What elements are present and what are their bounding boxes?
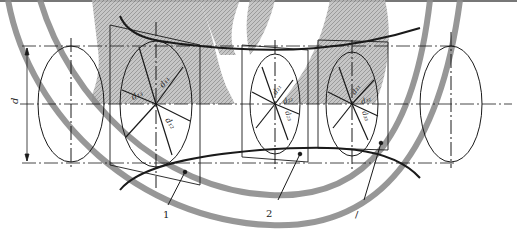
watermark-shapes: [92, 0, 389, 104]
callout-3: /: [355, 209, 359, 220]
callout-1: 1: [163, 209, 169, 220]
dimension-d-label: d: [9, 98, 20, 104]
section-2: [242, 40, 308, 200]
label-d12: d₁₂: [163, 116, 177, 131]
pipe-cross-section-diagram: d d₁₃ d₁₁ d₁₂: [0, 0, 517, 241]
callout-2: 2: [266, 208, 272, 219]
watermark-rings: [8, 0, 460, 225]
